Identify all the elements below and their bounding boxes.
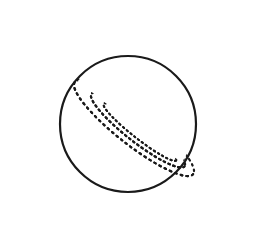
ring-outer [64, 68, 203, 187]
planet-body [60, 56, 196, 192]
rings [64, 68, 203, 187]
ring-middle [84, 84, 192, 176]
saturn-icon [0, 0, 263, 250]
saturn-illustration: Saturn line drawing [0, 0, 263, 250]
ring-outer [64, 68, 203, 187]
rings-front [64, 68, 203, 187]
ring-middle [84, 84, 192, 176]
